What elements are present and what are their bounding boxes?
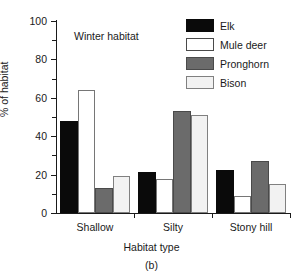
- x-axis-tick-mark: [290, 213, 291, 218]
- y-axis-tick-label: 0: [41, 208, 47, 219]
- y-axis-tick-mark: [52, 40, 56, 41]
- bar: [269, 184, 287, 213]
- y-axis-tick-mark: [52, 194, 56, 195]
- legend-label: Mule deer: [220, 39, 267, 51]
- y-axis-tick-mark: [52, 117, 56, 118]
- x-axis-tick-mark: [212, 213, 213, 218]
- x-axis-category-label: Stony hill: [230, 221, 273, 233]
- y-axis-tick-mark: [51, 59, 56, 60]
- bar: [78, 90, 96, 213]
- legend-label: Elk: [220, 20, 235, 32]
- figure-bar-chart: % of habitat 020406080100 Winter habitat…: [0, 0, 303, 276]
- y-axis-tick-label: 100: [29, 16, 47, 27]
- y-axis-tick-label: 60: [35, 93, 47, 104]
- y-axis-tick-mark: [51, 175, 56, 176]
- legend-swatch-icon: [186, 19, 214, 32]
- bar: [95, 188, 113, 213]
- bar: [191, 115, 209, 213]
- y-axis-title: % of habitat: [0, 62, 10, 117]
- bar: [251, 161, 269, 213]
- legend-item: Mule deer: [186, 35, 269, 54]
- x-axis-category-label: Silty: [163, 221, 183, 233]
- bar: [60, 121, 78, 213]
- y-axis-tick-label: 20: [35, 169, 47, 180]
- x-axis-line: [56, 213, 291, 214]
- plot-title: Winter habitat: [74, 30, 139, 42]
- y-axis-tick-mark: [51, 21, 56, 22]
- bar: [138, 172, 156, 213]
- legend-label: Bison: [220, 77, 246, 89]
- x-axis-title: Habitat type: [0, 241, 303, 253]
- legend-label: Pronghorn: [220, 58, 269, 70]
- bar: [156, 179, 174, 213]
- x-axis-tick-mark: [134, 213, 135, 218]
- bar: [173, 111, 191, 213]
- y-axis-tick-mark: [51, 98, 56, 99]
- y-axis-tick-mark: [52, 155, 56, 156]
- legend-item: Bison: [186, 73, 269, 92]
- legend: ElkMule deerPronghornBison: [186, 16, 269, 92]
- legend-item: Pronghorn: [186, 54, 269, 73]
- legend-swatch-icon: [186, 76, 214, 89]
- y-axis-tick-mark: [51, 213, 56, 214]
- bar: [234, 196, 252, 213]
- y-axis-tick-label: 80: [35, 54, 47, 65]
- y-axis-tick-mark: [52, 79, 56, 80]
- bar: [216, 170, 234, 213]
- legend-item: Elk: [186, 16, 269, 35]
- bar: [113, 176, 131, 213]
- figure-caption: (b): [0, 259, 303, 271]
- legend-swatch-icon: [186, 38, 214, 51]
- x-axis-category-label: Shallow: [77, 221, 114, 233]
- y-axis-tick-mark: [51, 136, 56, 137]
- y-axis-tick-label: 40: [35, 131, 47, 142]
- legend-swatch-icon: [186, 57, 214, 70]
